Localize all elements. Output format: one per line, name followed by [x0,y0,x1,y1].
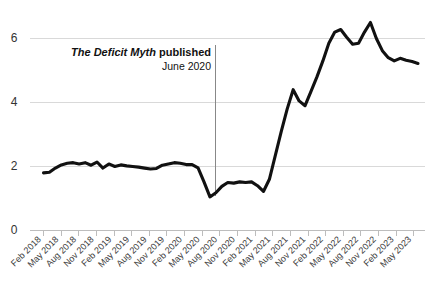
annotation-published-word: published [156,46,211,58]
publication-annotation: The Deficit Myth published June 2020 [71,46,211,72]
annotation-date: June 2020 [162,60,211,72]
ytick-label-6: 6 [11,31,18,45]
annotation-title: The Deficit Myth published [71,46,211,58]
line-chart: 6 4 2 0 [0,0,437,294]
gridlines [30,39,425,231]
ytick-label-0: 0 [11,223,18,237]
ytick-label-4: 4 [11,95,18,109]
y-axis-labels: 6 4 2 0 [11,31,18,237]
annotation-book-title: The Deficit Myth [71,46,156,58]
x-axis-labels: Feb 2018 May 2018 Aug 2018 Nov 2018 Feb … [9,234,413,269]
chart-container: 6 4 2 0 [0,0,437,294]
ytick-label-2: 2 [11,159,18,173]
